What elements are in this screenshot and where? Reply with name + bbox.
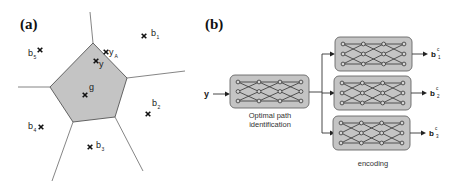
trellis-node — [339, 141, 343, 145]
output-label-3: b c 3 — [429, 126, 439, 139]
svg-text:3: 3 — [436, 134, 439, 139]
point-label-subscript: 4 — [34, 127, 37, 133]
arrowhead — [225, 92, 230, 97]
point-b5: b5 — [28, 48, 42, 60]
trellis-node — [380, 131, 384, 135]
trellis-node — [402, 52, 406, 56]
point-label: g — [89, 82, 94, 92]
arrowhead — [421, 131, 426, 136]
panel-a-label: (a) — [20, 16, 38, 33]
svg-text:c: c — [436, 86, 439, 91]
trellis-node — [401, 91, 405, 95]
trellis-node — [359, 121, 363, 125]
trellis-node — [401, 81, 405, 85]
trellis-node — [400, 121, 404, 125]
block-background — [334, 76, 411, 110]
point-label: y — [99, 59, 104, 69]
output-label-1: b c 1 — [431, 47, 441, 60]
point-label-subscript: 3 — [102, 146, 105, 152]
arrowhead — [422, 91, 427, 96]
svg-text:c: c — [437, 47, 440, 52]
trellis-node — [360, 101, 364, 105]
voronoi-edge — [115, 117, 143, 171]
trellis-node — [380, 121, 384, 125]
trellis-node — [402, 62, 406, 66]
svg-text:2: 2 — [437, 94, 440, 99]
block-background — [333, 116, 410, 150]
input-label: y — [204, 89, 209, 99]
trellis-node — [361, 42, 365, 46]
output-label-2: b c 2 — [430, 86, 440, 99]
block-background — [335, 37, 412, 71]
point-b3: b3 — [88, 140, 105, 152]
trellis-node — [382, 52, 386, 56]
left-block-caption-line1: Optimal path — [249, 111, 292, 120]
trellis-node — [341, 62, 345, 66]
block-background — [230, 75, 309, 108]
svg-text:1: 1 — [438, 55, 441, 60]
trellis-node — [359, 131, 363, 135]
point-label: b — [96, 140, 101, 150]
panel-a: (a) b1b2b3b4b5gyyA — [18, 12, 185, 181]
point-label-subscript: 5 — [34, 54, 37, 60]
trellis-node — [236, 90, 240, 94]
trellis-node — [339, 121, 343, 125]
panel-b: (b) y Optimal path identification b — [204, 16, 441, 168]
trellis-node — [299, 80, 303, 84]
voronoi-edge — [127, 71, 185, 78]
voronoi-edge — [90, 12, 93, 43]
trellis-node — [381, 81, 385, 85]
svg-text:b: b — [430, 89, 435, 98]
svg-text:b: b — [429, 129, 434, 138]
encoding-caption: encoding — [358, 159, 388, 168]
trellis-node — [382, 42, 386, 46]
encoding-block-3 — [333, 116, 410, 150]
trellis-node — [359, 141, 363, 145]
trellis-node — [339, 131, 343, 135]
point-label: b — [28, 121, 33, 131]
point-b2: b2 — [146, 98, 161, 116]
svg-text:c: c — [435, 126, 438, 131]
point-b4: b4 — [28, 121, 43, 133]
voronoi-edge — [52, 122, 73, 181]
trellis-node — [236, 99, 240, 103]
trellis-node — [340, 81, 344, 85]
trellis-node — [341, 42, 345, 46]
point-label: b — [151, 28, 156, 38]
point-b1: b1 — [142, 28, 160, 40]
trellis-node — [257, 99, 261, 103]
trellis-node — [299, 90, 303, 94]
figure: (a) b1b2b3b4b5gyyA (b) y Optimal path id… — [0, 0, 456, 187]
trellis-node — [401, 101, 405, 105]
point-label-subscript: 1 — [157, 34, 160, 40]
left-block-caption-line2: identification — [249, 120, 291, 129]
trellis-node — [380, 141, 384, 145]
trellis-node — [402, 42, 406, 46]
trellis-node — [236, 80, 240, 84]
trellis-node — [381, 91, 385, 95]
trellis-node — [340, 91, 344, 95]
trellis-node — [361, 52, 365, 56]
trellis-node — [361, 62, 365, 66]
point-label: b — [152, 98, 157, 108]
trellis-node — [340, 101, 344, 105]
arrowhead — [330, 52, 335, 57]
trellis-node — [278, 99, 282, 103]
encoding-block-2 — [334, 76, 411, 110]
trellis-node — [278, 80, 282, 84]
encoding-block-1 — [335, 37, 412, 71]
optimal-path-block — [230, 75, 309, 108]
trellis-node — [360, 81, 364, 85]
trellis-node — [360, 91, 364, 95]
trellis-node — [382, 62, 386, 66]
point-label-subscript: A — [115, 53, 119, 59]
trellis-node — [257, 80, 261, 84]
arrowhead — [423, 52, 428, 57]
trellis-node — [400, 131, 404, 135]
trellis-node — [299, 99, 303, 103]
trellis-node — [400, 141, 404, 145]
point-label-subscript: 2 — [158, 104, 161, 110]
trellis-node — [341, 52, 345, 56]
panel-b-label: (b) — [205, 16, 223, 33]
point-label: b — [28, 48, 33, 58]
